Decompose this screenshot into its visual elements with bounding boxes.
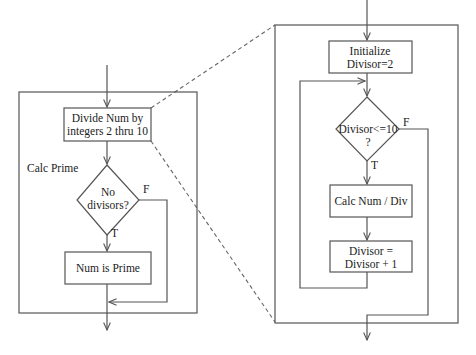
calc-prime-label: Calc Prime — [27, 162, 78, 174]
init-line1: Initialize — [350, 45, 391, 57]
num-is-prime-text: Num is Prime — [76, 262, 140, 274]
loop-decision-line1: Divisor<=10 — [339, 123, 398, 135]
right-flowchart: Initialize Divisor=2 Divisor<=10 ? F T C… — [275, 0, 458, 340]
loop-decision-line2: ? — [365, 136, 370, 148]
init-line2: Divisor=2 — [347, 58, 394, 70]
zoom-connector-bottom — [151, 141, 275, 322]
true-label: T — [111, 227, 118, 239]
loop-true-label: T — [371, 159, 378, 171]
calc-text: Calc Num / Div — [334, 195, 407, 207]
increment-line2: Divisor + 1 — [345, 258, 398, 270]
flowchart-diagram: Calc Prime Divide Num by integers 2 thru… — [0, 0, 476, 355]
increment-line1: Divisor = — [349, 245, 393, 257]
decision-line1: No — [101, 186, 115, 198]
zoom-connector-top — [151, 25, 275, 108]
left-flowchart: Calc Prime Divide Num by integers 2 thru… — [19, 65, 197, 330]
false-label: F — [143, 183, 149, 195]
decision-line2: divisors? — [87, 199, 129, 211]
divide-line2: integers 2 thru 10 — [67, 125, 148, 138]
divide-line1: Divide Num by — [72, 112, 144, 125]
loop-false-label: F — [403, 116, 409, 128]
